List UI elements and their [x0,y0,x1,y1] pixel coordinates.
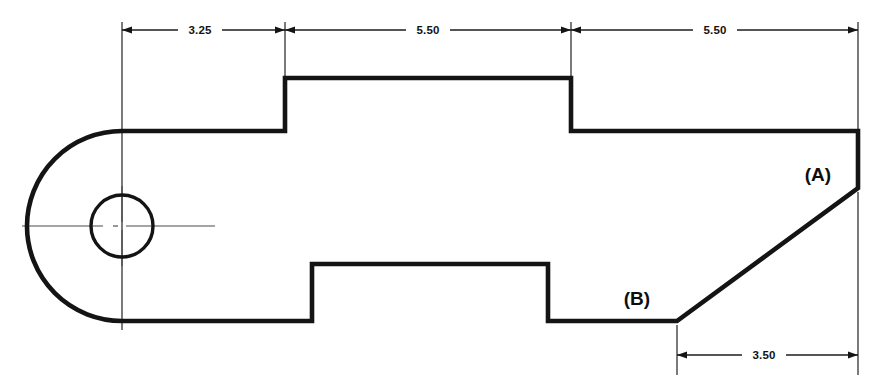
dimension-label-3-50: 3.50 [752,349,775,361]
point-label-a: (A) [805,164,831,185]
dimension-bottom-1: 3.50 [677,349,858,361]
dimension-top-2: 5.50 [285,24,571,36]
arrow-head-left-icon [571,27,581,34]
technical-drawing-canvas: 3.25 5.50 5.50 3.50 [0,0,882,385]
dimension-label-3-25: 3.25 [188,24,212,36]
arrow-head-right-icon [848,352,858,359]
dimension-top-3: 5.50 [571,24,858,36]
arrow-head-left-icon [122,27,132,34]
centerlines-group [22,186,215,266]
arrow-head-left-icon [285,27,295,34]
technical-drawing-viewport: 3.25 5.50 5.50 3.50 [0,0,882,385]
dimension-top-1: 3.25 [122,24,285,36]
dimension-label-5-50-second: 5.50 [703,24,726,36]
dimension-label-5-50-first: 5.50 [416,24,439,36]
arrow-head-right-icon [848,27,858,34]
part-outline-path [27,78,858,321]
arrow-head-left-icon [677,352,687,359]
point-label-b: (B) [624,288,650,309]
arrow-head-right-icon [561,27,571,34]
arrow-head-right-icon [275,27,285,34]
